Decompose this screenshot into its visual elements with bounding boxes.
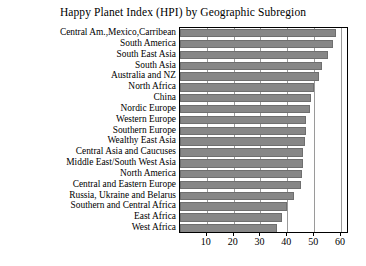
bar[interactable]: [180, 94, 311, 102]
y-axis-labels: Central Am.,Mexico,CarribeanSouth Americ…: [0, 27, 176, 233]
bar-row[interactable]: [180, 93, 348, 104]
x-tick-mark-60: [340, 233, 341, 236]
bar-row[interactable]: [180, 212, 348, 223]
bar-row[interactable]: [180, 39, 348, 50]
bar[interactable]: [180, 192, 294, 200]
bar[interactable]: [180, 170, 302, 178]
bar-row[interactable]: [180, 71, 348, 82]
bar[interactable]: [180, 224, 277, 232]
bar[interactable]: [180, 29, 336, 37]
plot-area: [179, 27, 348, 233]
y-axis-label: Southern Europe: [0, 125, 176, 136]
x-axis-labels: 102030405060: [0, 236, 366, 252]
bar-row[interactable]: [180, 169, 348, 180]
bar-row[interactable]: [180, 104, 348, 115]
y-axis-label: Central Am.,Mexico,Carribean: [0, 27, 176, 38]
bar-row[interactable]: [180, 180, 348, 191]
x-axis-tick-label: 60: [335, 236, 345, 247]
bar-row[interactable]: [180, 61, 348, 72]
bar[interactable]: [180, 148, 303, 156]
bar[interactable]: [180, 62, 322, 70]
y-axis-label: South East Asia: [0, 49, 176, 60]
hpi-bar-chart: Happy Planet Index (HPI) by Geographic S…: [0, 0, 366, 266]
x-axis-tick-label: 20: [228, 236, 238, 247]
x-axis-tick-label: 40: [281, 236, 291, 247]
y-axis-label: Middle East/South West Asia: [0, 157, 176, 168]
bar-row[interactable]: [180, 223, 348, 233]
y-axis-label: Western Europe: [0, 114, 176, 125]
y-axis-label: China: [0, 92, 176, 103]
y-axis-label: Nordic Europe: [0, 103, 176, 114]
bar-row[interactable]: [180, 201, 348, 212]
bar[interactable]: [180, 213, 282, 221]
x-tick-mark-30: [259, 233, 260, 236]
bar[interactable]: [180, 51, 328, 59]
bar-row[interactable]: [180, 158, 348, 169]
bar[interactable]: [180, 202, 287, 210]
y-axis-label: Central and Eastern Europe: [0, 179, 176, 190]
x-tick-mark-50: [313, 233, 314, 236]
bar[interactable]: [180, 40, 333, 48]
x-tick-mark-10: [206, 233, 207, 236]
x-axis-tick-label: 50: [308, 236, 318, 247]
bar-row[interactable]: [180, 28, 348, 39]
y-axis-label: North Africa: [0, 81, 176, 92]
bar[interactable]: [180, 127, 306, 135]
bar-row[interactable]: [180, 136, 348, 147]
bar-row[interactable]: [180, 115, 348, 126]
y-axis-label: Central Asia and Caucuses: [0, 146, 176, 157]
chart-title: Happy Planet Index (HPI) by Geographic S…: [0, 6, 366, 18]
bar[interactable]: [180, 159, 303, 167]
bar[interactable]: [180, 105, 310, 113]
bar-row[interactable]: [180, 147, 348, 158]
x-axis-tick-label: 30: [254, 236, 264, 247]
bar-row[interactable]: [180, 82, 348, 93]
x-tick-mark-40: [286, 233, 287, 236]
y-axis-label: South Asia: [0, 60, 176, 71]
bar-row[interactable]: [180, 50, 348, 61]
bar-row[interactable]: [180, 126, 348, 137]
y-axis-label: Southern and Central Africa: [0, 200, 176, 211]
y-axis-label: Russia, Ukraine and Belarus: [0, 190, 176, 201]
bar[interactable]: [180, 72, 319, 80]
bar[interactable]: [180, 83, 314, 91]
x-axis-tick-label: 10: [201, 236, 211, 247]
x-tick-mark-20: [233, 233, 234, 236]
y-axis-label: West Africa: [0, 222, 176, 233]
bars-container: [180, 28, 347, 232]
bar[interactable]: [180, 137, 305, 145]
y-axis-label: South America: [0, 38, 176, 49]
y-axis-label: North America: [0, 168, 176, 179]
bar[interactable]: [180, 181, 301, 189]
y-axis-label: Australia and NZ: [0, 70, 176, 81]
bar-row[interactable]: [180, 191, 348, 202]
bar[interactable]: [180, 116, 306, 124]
y-axis-label: East Africa: [0, 211, 176, 222]
y-axis-label: Wealthy East Asia: [0, 135, 176, 146]
